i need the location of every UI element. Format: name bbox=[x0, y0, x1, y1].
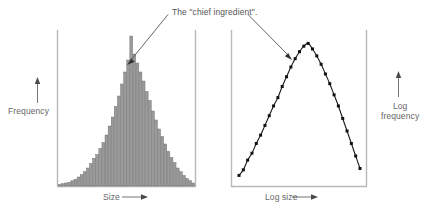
histogram-bar bbox=[139, 72, 142, 186]
histogram-bar bbox=[117, 96, 120, 186]
data-point-marker bbox=[246, 159, 249, 162]
log-log-panel bbox=[231, 30, 367, 187]
frequency-axis-arrow bbox=[35, 77, 40, 103]
data-point-marker bbox=[311, 47, 314, 50]
chief-ingredient-annotation: The "chief ingredient". bbox=[172, 7, 257, 17]
histogram-bar bbox=[176, 168, 179, 186]
histogram-bar bbox=[59, 185, 62, 187]
histogram-bar bbox=[142, 81, 145, 186]
histogram-bar bbox=[114, 107, 117, 187]
loglog-curve bbox=[239, 43, 360, 175]
data-point-marker bbox=[272, 104, 275, 107]
logfrequency-label-line1: Log bbox=[381, 101, 419, 111]
data-point-marker bbox=[268, 114, 271, 117]
histogram-bar bbox=[145, 92, 148, 187]
histogram-bar bbox=[158, 129, 161, 186]
frequency-axis-label: Frequency bbox=[8, 106, 49, 116]
histogram-bar bbox=[192, 183, 195, 186]
data-point-marker bbox=[242, 168, 245, 171]
annotation-arrow-right bbox=[248, 15, 292, 61]
histogram-bar bbox=[124, 72, 127, 186]
histogram-bar bbox=[71, 181, 74, 186]
histogram-bar bbox=[83, 172, 86, 186]
data-point-marker bbox=[350, 142, 353, 145]
histogram-bars bbox=[59, 36, 195, 186]
logsize-axis-label: Log size bbox=[265, 192, 297, 202]
histogram-bar bbox=[136, 63, 139, 186]
figure-container: The "chief ingredient". Frequency Size L… bbox=[0, 0, 426, 216]
histogram-bar bbox=[105, 135, 108, 186]
data-point-marker bbox=[238, 174, 241, 177]
histogram-bar bbox=[170, 158, 173, 187]
figure-svg bbox=[0, 0, 426, 216]
loglog-data-markers bbox=[238, 42, 362, 177]
histogram-bar bbox=[173, 163, 176, 186]
size-axis-label: Size bbox=[103, 192, 120, 202]
logfrequency-axis-label: Log frequency bbox=[381, 101, 419, 121]
histogram-bar bbox=[99, 149, 102, 187]
data-point-marker bbox=[294, 57, 297, 60]
histogram-bar bbox=[77, 177, 80, 186]
histogram-bar bbox=[183, 176, 186, 187]
histogram-bar bbox=[189, 181, 192, 186]
data-point-marker bbox=[285, 75, 288, 78]
histogram-bar bbox=[102, 143, 105, 187]
data-point-marker bbox=[320, 63, 323, 66]
histogram-bar bbox=[90, 164, 93, 187]
data-point-marker bbox=[328, 82, 331, 85]
data-point-marker bbox=[337, 104, 340, 107]
histogram-bar bbox=[65, 183, 68, 186]
data-point-marker bbox=[346, 129, 349, 132]
data-point-marker bbox=[324, 72, 327, 75]
histogram-bar bbox=[148, 101, 151, 187]
data-point-marker bbox=[298, 50, 301, 53]
histogram-bar bbox=[186, 179, 189, 187]
data-point-marker bbox=[341, 117, 344, 120]
histogram-bar bbox=[111, 117, 114, 186]
histogram-bar bbox=[152, 111, 155, 186]
histogram-bar bbox=[74, 179, 77, 186]
size-axis-arrow bbox=[122, 194, 148, 199]
histogram-bar bbox=[155, 120, 158, 186]
data-point-marker bbox=[359, 167, 362, 170]
data-point-marker bbox=[302, 45, 305, 48]
histogram-bar bbox=[96, 155, 99, 187]
data-point-marker bbox=[250, 152, 253, 155]
histogram-bar bbox=[121, 84, 124, 186]
histogram-bar bbox=[164, 144, 167, 186]
data-point-marker bbox=[307, 42, 310, 45]
histogram-bar bbox=[179, 172, 182, 186]
histogram-bar bbox=[108, 126, 111, 186]
histogram-panel bbox=[57, 30, 196, 187]
data-point-marker bbox=[263, 124, 266, 127]
data-point-marker bbox=[315, 54, 318, 57]
data-point-marker bbox=[289, 66, 292, 69]
data-point-marker bbox=[255, 142, 258, 145]
histogram-bar bbox=[62, 184, 65, 186]
data-point-marker bbox=[333, 93, 336, 96]
histogram-bar bbox=[86, 168, 89, 186]
histogram-bar bbox=[161, 137, 164, 187]
histogram-bar bbox=[93, 158, 96, 186]
logfrequency-label-line2: frequency bbox=[381, 111, 419, 121]
logfrequency-axis-arrow bbox=[396, 71, 401, 97]
data-point-marker bbox=[259, 134, 262, 137]
histogram-bar bbox=[80, 175, 83, 186]
data-point-marker bbox=[354, 154, 357, 157]
histogram-bar bbox=[133, 54, 136, 186]
histogram-bar bbox=[127, 60, 130, 186]
histogram-bar bbox=[68, 182, 71, 186]
annotation-arrow-left bbox=[127, 15, 168, 66]
data-point-marker bbox=[276, 96, 279, 99]
data-point-marker bbox=[281, 85, 284, 88]
histogram-bar bbox=[167, 152, 170, 187]
